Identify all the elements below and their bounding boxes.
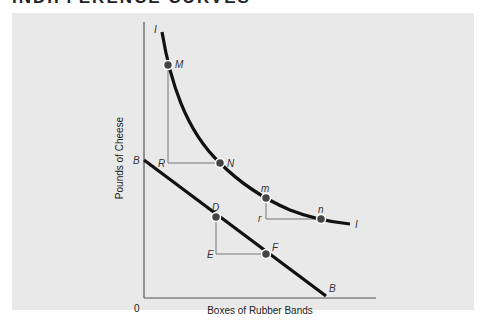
y-axis-label: Pounds of Cheese xyxy=(114,116,125,199)
x-axis-label: Boxes of Rubber Bands xyxy=(207,305,313,316)
label-N: N xyxy=(227,158,235,169)
label-B-end: B xyxy=(329,283,336,294)
label-I-top: I xyxy=(154,24,157,35)
point-N xyxy=(216,159,225,168)
data-points xyxy=(164,61,326,259)
indifference-diagram: I I B B M N R m n r D E F 0 Boxes of Rub… xyxy=(0,0,483,332)
point-D xyxy=(212,213,221,222)
label-E: E xyxy=(207,249,214,260)
label-B-top: B xyxy=(133,155,140,166)
label-I-end: I xyxy=(355,219,358,230)
point-F xyxy=(262,250,271,259)
label-r: r xyxy=(258,213,262,224)
budget-line xyxy=(144,160,326,296)
label-n: n xyxy=(318,204,324,215)
label-D: D xyxy=(212,202,219,213)
point-m xyxy=(262,194,271,203)
label-M: M xyxy=(175,59,184,70)
origin-label: 0 xyxy=(134,303,140,314)
point-n xyxy=(317,215,326,224)
label-F: F xyxy=(272,242,279,253)
point-M xyxy=(164,61,173,70)
triangle-MRN xyxy=(168,65,220,163)
label-m: m xyxy=(261,183,269,194)
label-R: R xyxy=(158,158,165,169)
